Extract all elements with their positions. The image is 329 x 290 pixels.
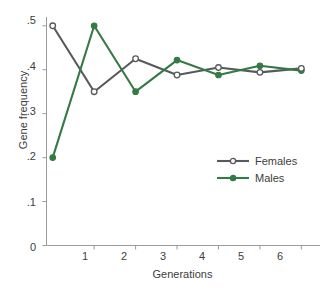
x-axis-ticks (94, 246, 301, 250)
legend-item-males: Males (216, 169, 297, 186)
gene-frequency-chart: Gene frequency .5 .4 .3 .2 .1 0 1 2 3 4 … (0, 0, 329, 290)
legend: Females Males (216, 152, 297, 186)
data-point (216, 65, 222, 71)
legend-swatch-males-icon (216, 172, 250, 184)
legend-item-females: Females (216, 152, 297, 169)
plot-area (0, 0, 329, 290)
data-point (91, 89, 97, 95)
data-point (174, 57, 180, 63)
data-point (91, 23, 97, 29)
data-point (133, 56, 139, 62)
data-point (50, 155, 56, 161)
data-point (50, 23, 56, 29)
legend-label-females: Females (255, 155, 297, 167)
data-point (299, 66, 305, 72)
data-point (216, 72, 222, 78)
data-point (133, 89, 139, 95)
legend-swatch-females-icon (216, 155, 250, 167)
legend-label-males: Males (255, 172, 284, 184)
axis-lines (47, 17, 321, 246)
data-point (257, 70, 263, 76)
data-point (257, 63, 263, 69)
series-line-males (53, 26, 302, 158)
data-point (174, 72, 180, 78)
y-axis-ticks (43, 26, 47, 246)
